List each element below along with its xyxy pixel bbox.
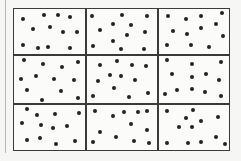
dot	[145, 14, 149, 18]
dot	[186, 141, 190, 145]
dot	[221, 34, 225, 38]
dot	[204, 72, 208, 76]
grid-divider-horizontal	[13, 54, 230, 56]
grid-divider-vertical	[157, 8, 159, 151]
side-rule-line	[5, 0, 6, 153]
dot	[59, 89, 63, 93]
dot	[91, 94, 95, 98]
dot	[25, 88, 29, 92]
dot	[145, 109, 149, 113]
dot	[48, 25, 52, 29]
dot	[189, 43, 193, 47]
dot	[142, 47, 146, 51]
dot	[199, 14, 203, 18]
dot	[68, 46, 72, 50]
dot	[41, 62, 45, 66]
dot	[39, 123, 43, 127]
dot	[175, 88, 179, 92]
dot	[165, 141, 169, 145]
dot	[61, 30, 65, 34]
dot	[36, 46, 40, 50]
quadrat-grid	[13, 8, 230, 151]
dot	[165, 109, 169, 113]
dot	[132, 139, 136, 143]
dot	[130, 63, 134, 67]
dot	[93, 109, 97, 113]
dot	[111, 39, 115, 43]
dot	[223, 142, 227, 146]
dot	[42, 13, 46, 17]
dot	[111, 22, 115, 26]
dot	[190, 87, 194, 91]
dot	[190, 75, 194, 79]
dot	[203, 90, 207, 94]
dot	[119, 74, 123, 78]
dot	[98, 28, 102, 32]
dot	[147, 141, 151, 145]
dot	[165, 43, 169, 47]
dot	[127, 95, 131, 99]
dot	[185, 32, 189, 36]
dot	[163, 92, 167, 96]
dot	[25, 138, 29, 142]
dot	[21, 17, 25, 21]
dot	[129, 23, 133, 27]
dot	[90, 14, 94, 18]
dot	[143, 30, 147, 34]
dot	[31, 27, 35, 31]
dot	[170, 72, 174, 76]
dot	[25, 107, 29, 111]
grid-divider-vertical	[85, 8, 87, 151]
dot	[220, 11, 224, 15]
dot	[146, 91, 150, 95]
dot	[190, 62, 194, 66]
dot	[91, 140, 95, 144]
dot	[120, 13, 124, 17]
dot	[54, 142, 58, 146]
dot	[75, 30, 79, 34]
dot	[184, 17, 188, 21]
dot	[145, 128, 149, 132]
dot	[91, 44, 95, 48]
dot	[207, 45, 211, 49]
dot	[115, 59, 119, 63]
dot	[60, 65, 64, 69]
dot	[21, 43, 25, 47]
grid-divider-horizontal	[13, 103, 230, 105]
dot	[35, 113, 39, 117]
dot	[125, 33, 129, 37]
dot	[65, 124, 69, 128]
dot	[19, 77, 23, 81]
dot	[72, 78, 76, 82]
dot	[114, 135, 118, 139]
dot	[96, 79, 100, 83]
dot	[53, 112, 57, 116]
dot	[73, 139, 77, 143]
dot	[177, 125, 181, 129]
dot	[214, 22, 218, 26]
dot	[199, 119, 203, 123]
dot	[166, 14, 170, 18]
dot	[76, 96, 80, 100]
dot	[98, 63, 102, 67]
dot	[122, 110, 126, 114]
dot	[119, 47, 123, 51]
dot	[108, 73, 112, 77]
dot	[199, 26, 203, 30]
dot	[199, 140, 203, 144]
dot	[219, 94, 223, 98]
dot	[52, 77, 56, 81]
dot	[136, 110, 140, 114]
dot	[34, 74, 38, 78]
dot	[112, 86, 116, 90]
dot	[98, 130, 102, 134]
dot	[216, 115, 220, 119]
dot	[51, 126, 55, 130]
dot	[214, 135, 218, 139]
dot	[219, 60, 223, 64]
dot	[111, 114, 115, 118]
dot	[133, 78, 137, 82]
dot	[191, 108, 195, 112]
dot	[165, 58, 169, 62]
dot	[77, 111, 81, 115]
